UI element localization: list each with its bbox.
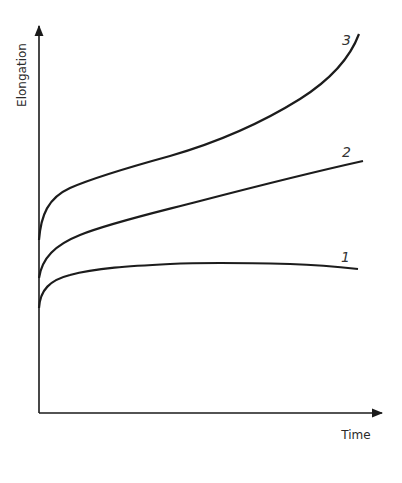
y-axis-label: Elongation [15,43,29,107]
curve-3 [39,34,359,240]
curve-2 [39,161,363,278]
curve-3-label: 3 [342,32,351,48]
curve-1 [39,263,358,308]
curve-2-label: 2 [342,144,351,160]
x-axis-label: Time [340,428,370,442]
curve-1-label: 1 [341,249,350,265]
creep-curve-chart: Elongation Time 1 2 3 [0,0,402,483]
